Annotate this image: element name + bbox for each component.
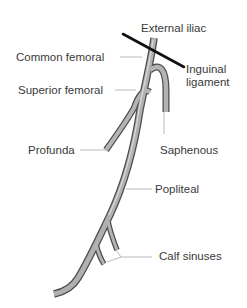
- label-profunda: Profunda: [28, 144, 75, 157]
- label-saphenous: Saphenous: [160, 144, 218, 157]
- leader-calf-sinuses-upper: [116, 250, 121, 257]
- label-common-femoral: Common femoral: [16, 51, 104, 64]
- label-superior-femoral: Superior femoral: [18, 84, 103, 97]
- label-inguinal-ligament-line1: Inguinal: [186, 63, 226, 76]
- main-vein: [54, 38, 154, 294]
- label-external-iliac: External iliac: [141, 22, 206, 35]
- veins: [54, 38, 166, 294]
- leader-calf-sinuses-lower: [107, 257, 152, 262]
- label-popliteal: Popliteal: [155, 183, 199, 196]
- label-inguinal-ligament-line2: ligament: [186, 76, 229, 89]
- label-calf-sinuses: Calf sinuses: [159, 250, 222, 263]
- main-vein-outline: [54, 38, 154, 294]
